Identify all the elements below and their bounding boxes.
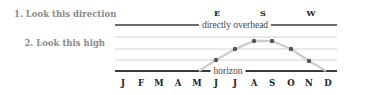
data-point-sep [270, 39, 274, 43]
data-point-nov [307, 59, 311, 63]
horizon-label: horizon [210, 66, 245, 76]
data-point-oct [289, 47, 293, 51]
month-label: N [305, 78, 313, 88]
month-label: J [214, 78, 218, 88]
month-label: A [175, 78, 182, 88]
month-label: J [233, 78, 237, 88]
month-label: M [154, 78, 163, 88]
data-point-jul [233, 47, 237, 51]
overhead-label: directly overhead [199, 20, 271, 30]
month-label: S [269, 78, 275, 88]
month-label: F [138, 78, 144, 88]
sky-height-chart [0, 0, 369, 95]
month-label: D [324, 78, 331, 88]
data-point-jun [214, 58, 218, 62]
month-label: M [192, 78, 201, 88]
month-label: O [287, 78, 294, 88]
data-point-aug [252, 39, 256, 43]
month-label: A [251, 78, 258, 88]
month-label: J [121, 78, 125, 88]
